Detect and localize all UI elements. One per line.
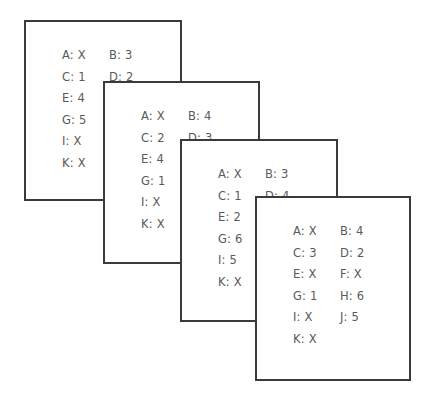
card-entry: C: 1 (62, 71, 86, 84)
card-entry: B: 3 (265, 168, 289, 181)
card-entry: A: X (62, 49, 86, 62)
card-entry: E: 2 (218, 211, 241, 224)
card-entry: K: X (293, 333, 317, 346)
card-entry: E: 4 (141, 153, 164, 166)
card-entry: F: X (340, 268, 362, 281)
card-entry: A: X (141, 110, 165, 123)
card-entry: J: 5 (340, 311, 359, 324)
card-entry: K: X (62, 157, 86, 170)
card-entry: H: 6 (340, 290, 364, 303)
card-entry: C: 1 (218, 190, 242, 203)
card-entry: G: 1 (293, 290, 318, 303)
card-entry: B: 4 (340, 225, 364, 238)
card-entry: A: X (293, 225, 317, 238)
card-entry: G: 5 (62, 114, 87, 127)
card-entry: E: 4 (62, 92, 85, 105)
card-entry: G: 1 (141, 175, 166, 188)
card-entry: K: X (218, 276, 242, 289)
card-entry: B: 3 (109, 49, 133, 62)
card-entry: E: X (293, 268, 316, 281)
card-entry: D: 2 (340, 247, 365, 260)
card-entry: G: 6 (218, 233, 243, 246)
card-entry: I: 5 (218, 254, 237, 267)
card-entry: C: 3 (293, 247, 317, 260)
card-entry: I: X (62, 135, 82, 148)
card-entry: A: X (218, 168, 242, 181)
card-entry: K: X (141, 218, 165, 231)
card-entry: I: X (293, 311, 313, 324)
card-4: A: XB: 4C: 3D: 2E: XF: XG: 1H: 6I: XJ: 5… (255, 196, 411, 381)
card-entry: I: X (141, 196, 161, 209)
card-entry: B: 4 (188, 110, 212, 123)
card-entry: C: 2 (141, 132, 165, 145)
